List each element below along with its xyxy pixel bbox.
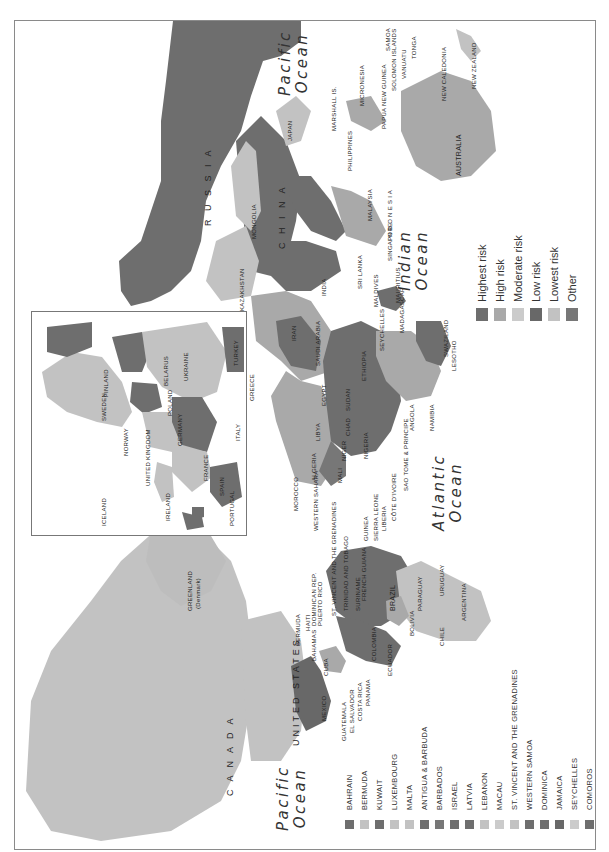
label-philippines: PHILIPPINES: [347, 131, 353, 171]
legend-swatch: [480, 820, 489, 829]
legend-swatch: [525, 820, 534, 829]
label-india: INDIA: [321, 278, 327, 296]
label-paraguay: PARAGUAY: [417, 576, 423, 611]
small-legend-item: DOMINICA: [537, 669, 552, 829]
label-bolivia: BOLIVIA: [409, 611, 415, 636]
label-iran: IRAN: [291, 325, 297, 341]
label-spain: SPAIN: [219, 477, 225, 496]
label-uruguay: URUGUAY: [439, 564, 445, 596]
label-belarus: BELARUS: [163, 356, 169, 386]
region-finland-north: [47, 322, 92, 357]
label-mongolia: MONGOLIA: [251, 204, 257, 239]
label-lesotho: LESOTHO: [451, 340, 457, 371]
small-countries-legend: BAHRAIN BERMUDA KUWAIT LUXEMBOURG MALTA …: [342, 669, 596, 829]
legend-swatch: [435, 820, 444, 829]
label-solomon: SOLOMON ISLANDS: [391, 28, 397, 91]
label-russia: R U S S I A: [203, 147, 213, 226]
label-mexico: MEXICO: [321, 696, 327, 721]
label-niger: NIGER: [341, 440, 347, 461]
legend-item-other: Other: [563, 235, 581, 321]
region-spain: [210, 462, 242, 507]
label-singapore: SINGAPORE: [387, 223, 393, 261]
label-united-kingdom: UNITED KINGDOM: [145, 429, 151, 486]
label-liberia: LIBERIA: [381, 506, 387, 531]
legend-swatch: [512, 308, 524, 321]
region-poland: [130, 382, 162, 414]
ocean-label-pacific-top: Pacific Ocean: [277, 30, 311, 96]
label-italy: ITALY: [235, 424, 241, 441]
legend-swatch: [585, 820, 594, 829]
label-samoa: SAMOA: [385, 28, 391, 51]
label-malaysia: MALAYSIA: [367, 189, 373, 221]
small-legend-item: MALTA: [402, 669, 417, 829]
label-tonga: TONGA: [411, 36, 417, 59]
ocean-label-pacific-bottom: Pacific Ocean: [275, 765, 309, 831]
label-sweden: SWEDEN: [101, 393, 107, 421]
label-ireland: IRELAND: [165, 493, 171, 521]
label-guinea: GUINEA: [363, 516, 369, 541]
legend-swatch: [360, 820, 369, 829]
legend-swatch: [390, 820, 399, 829]
label-finland: FINLAND: [103, 369, 109, 397]
label-seychelles: SEYCHELLES: [379, 309, 385, 351]
label-iceland: ICELAND: [101, 498, 107, 526]
label-papua: PAPUA NEW GUINEA: [381, 64, 387, 129]
small-legend-item: LATVIA: [462, 669, 477, 829]
label-sri-lanka: SRI LANKA: [357, 255, 363, 289]
legend-swatch: [420, 820, 429, 829]
label-australia: AUSTRALIA: [455, 134, 462, 176]
small-legend-item: ANTIGUA & BARBUDA: [417, 669, 432, 829]
label-new-caledonia: NEW CALEDONIA: [441, 47, 447, 101]
label-maldives: MALDIVES: [373, 274, 379, 307]
legend-swatch: [530, 308, 542, 321]
small-legend-item: MACAU: [492, 669, 507, 829]
label-puerto-rico: PUERTO RICO: [317, 581, 323, 626]
small-legend-item: WESTERN SAMOA: [522, 669, 537, 829]
region-png: [346, 96, 386, 131]
label-bahamas: BAHAMAS: [311, 630, 317, 661]
legend-swatch: [465, 820, 474, 829]
legend-swatch: [450, 820, 459, 829]
small-legend-item: LEBANON: [477, 669, 492, 829]
legend-swatch: [566, 308, 578, 321]
legend-swatch: [570, 820, 579, 829]
legend-swatch: [494, 308, 506, 321]
europe-inset: [31, 311, 247, 536]
small-legend-item: BERMUDA: [357, 669, 372, 829]
label-micronesia: MICRONESIA: [359, 65, 365, 106]
label-sierra-leone: SIERRA LEONE: [373, 493, 379, 541]
small-legend-item: KUWAIT: [372, 669, 387, 829]
map-frame: Pacific Ocean Indian Ocean Atlantic Ocea…: [14, 20, 596, 850]
label-angola: ANGOLA: [409, 404, 415, 431]
label-marshall: MARSHALL IS.: [331, 86, 337, 131]
label-ukraine: UKRAINE: [183, 352, 189, 381]
label-sao-tome: SAO TOME & PRINCIPE: [403, 418, 409, 491]
label-greece: GREECE: [249, 374, 255, 401]
label-portugal: PORTUGAL: [229, 491, 235, 526]
region-new-zealand: [456, 29, 481, 61]
small-legend-item: JAMAICA: [552, 669, 567, 829]
label-mali: MALI: [337, 468, 343, 483]
label-japan: JAPAN: [287, 121, 293, 141]
small-legend-item: LUXEMBOURG: [387, 669, 402, 829]
legend-swatch: [476, 308, 488, 321]
label-libya: LIBYA: [315, 423, 321, 441]
legend-item-low: Low risk: [527, 235, 545, 321]
label-namibia: NAMIBIA: [429, 404, 435, 431]
label-morocco: MOROCCO: [293, 477, 299, 511]
label-sudan: SUDAN: [345, 388, 351, 411]
label-china: C H I N A: [277, 184, 287, 249]
label-colombia: COLOMBIA: [371, 627, 377, 661]
legend-swatch: [345, 820, 354, 829]
label-saudi: SAUDI ARABIA: [315, 321, 321, 366]
small-legend-item: SEYCHELLES: [567, 669, 582, 829]
label-swaziland: SWAZILAND: [443, 320, 449, 357]
label-united-states: UNITED STATES: [291, 637, 301, 746]
region-australia: [401, 71, 496, 181]
legend-swatch: [555, 820, 564, 829]
label-canada: C A N A D A: [225, 715, 235, 796]
region-scandinavia: [42, 352, 132, 427]
small-legend-item: BARBADOS: [432, 669, 447, 829]
label-norway: NORWAY: [123, 428, 129, 456]
label-france: FRANCE: [203, 455, 209, 481]
